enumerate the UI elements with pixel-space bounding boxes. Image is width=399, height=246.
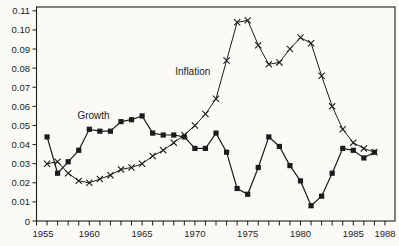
growth-marker [319, 194, 324, 199]
growth-series [44, 113, 377, 208]
inflation-marker [107, 172, 113, 178]
inflation-marker [340, 126, 346, 132]
x-tick-label: 1955 [32, 228, 53, 239]
growth-marker [192, 146, 197, 151]
growth-line [47, 116, 374, 206]
growth-marker [277, 144, 282, 149]
inflation-marker [150, 153, 156, 159]
growth-marker [139, 113, 144, 118]
y-tick-label: 0 [25, 216, 30, 227]
growth-marker [161, 132, 166, 137]
y-tick-label: 0.11 [12, 5, 30, 16]
inflation-marker [255, 42, 261, 48]
growth-label: Growth [77, 110, 109, 121]
x-tick-label: 1960 [79, 228, 100, 239]
inflation-marker [171, 140, 177, 146]
growth-inflation-figure: 00.010.020.030.040.050.060.070.080.090.1… [0, 0, 399, 246]
inflation-marker [329, 103, 335, 109]
growth-marker [108, 129, 113, 134]
y-tick-label: 0.01 [12, 196, 31, 207]
growth-marker [235, 186, 240, 191]
inflation-marker [160, 147, 166, 153]
inflation-label: Inflation [175, 66, 210, 77]
inflation-marker [361, 145, 367, 151]
inflation-marker [223, 57, 229, 63]
inflation-marker [213, 96, 219, 102]
inflation-marker [65, 170, 71, 176]
inflation-marker [97, 176, 103, 182]
growth-marker [118, 119, 123, 124]
inflation-line [47, 20, 374, 182]
growth-marker [44, 134, 49, 139]
inflation-marker [287, 46, 293, 52]
y-tick-label: 0.03 [12, 158, 31, 169]
x-tick-label: 1980 [290, 228, 311, 239]
growth-marker [213, 131, 218, 136]
growth-marker [76, 148, 81, 153]
inflation-marker [319, 73, 325, 79]
growth-marker [340, 146, 345, 151]
inflation-marker [202, 111, 208, 117]
x-axis: 19551960196519701975198019851988 [32, 221, 395, 239]
growth-marker [351, 148, 356, 153]
x-tick-label: 1970 [184, 228, 205, 239]
inflation-marker [297, 34, 303, 40]
growth-marker [330, 171, 335, 176]
growth-marker [298, 178, 303, 183]
growth-marker [66, 159, 71, 164]
growth-marker [203, 146, 208, 151]
growth-marker [361, 155, 366, 160]
y-tick-label: 0.08 [12, 63, 31, 74]
inflation-marker [308, 40, 314, 46]
inflation-marker [139, 161, 145, 167]
y-tick-label: 0.04 [12, 139, 31, 150]
inflation-series [44, 17, 378, 186]
y-axis: 00.010.020.030.040.050.060.070.080.090.1… [12, 5, 37, 226]
x-tick-label: 1965 [132, 228, 153, 239]
x-tick-label: 1985 [343, 228, 364, 239]
inflation-marker [350, 140, 356, 146]
growth-marker [129, 117, 134, 122]
growth-inflation-chart: 00.010.020.030.040.050.060.070.080.090.1… [0, 0, 399, 246]
growth-marker [287, 163, 292, 168]
growth-marker [266, 134, 271, 139]
x-tick-label: 1975 [237, 228, 258, 239]
x-tick-label: 1988 [374, 228, 395, 239]
growth-marker [97, 129, 102, 134]
y-tick-label: 0.09 [12, 44, 31, 55]
growth-marker [256, 165, 261, 170]
growth-marker [245, 192, 250, 197]
y-tick-label: 0.02 [12, 177, 31, 188]
growth-marker [308, 203, 313, 208]
y-tick-label: 0.07 [12, 82, 31, 93]
y-tick-label: 0.05 [12, 120, 31, 131]
growth-marker [224, 150, 229, 155]
growth-marker [87, 127, 92, 132]
inflation-marker [192, 122, 198, 128]
growth-marker [55, 171, 60, 176]
growth-marker [150, 131, 155, 136]
y-tick-label: 0.10 [12, 24, 31, 35]
growth-marker [171, 132, 176, 137]
y-tick-label: 0.06 [12, 101, 31, 112]
